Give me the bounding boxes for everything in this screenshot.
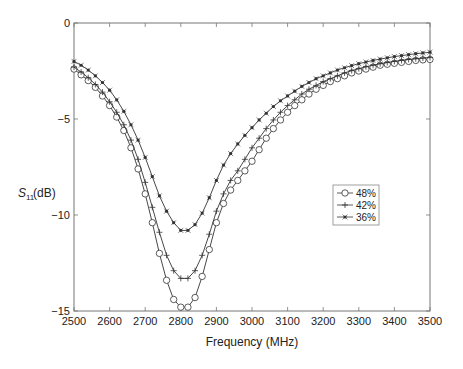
y-tick-label: 0 <box>64 17 70 29</box>
y-tick-label: −10 <box>51 209 70 221</box>
x-tick-label: 3200 <box>311 315 335 327</box>
x-tick-label: 3000 <box>240 315 264 327</box>
x-tick-label: 2600 <box>97 315 121 327</box>
x-tick-label: 3400 <box>382 315 406 327</box>
x-tick-label: 2900 <box>204 315 228 327</box>
x-tick-label: 2700 <box>133 315 157 327</box>
series-42pct <box>71 55 433 282</box>
s11-chart: 2500260027002800290030003100320033003400… <box>0 0 463 369</box>
legend-label: 48% <box>356 188 376 199</box>
y-tick-label: −5 <box>57 113 70 125</box>
x-tick-label: 3500 <box>418 315 442 327</box>
x-tick-label: 2800 <box>169 315 193 327</box>
y-label-main: S <box>18 186 26 200</box>
legend-label: 36% <box>356 212 376 223</box>
y-tick-label: −15 <box>51 305 70 317</box>
legend-label: 42% <box>356 200 376 211</box>
series-48pct <box>71 56 433 310</box>
legend: 48%42%36% <box>333 185 379 225</box>
x-axis-label: Frequency (MHz) <box>206 335 299 349</box>
x-tick-label: 3300 <box>347 315 371 327</box>
y-label-unit: (dB) <box>33 186 56 200</box>
x-tick-label: 3100 <box>275 315 299 327</box>
y-axis-label: S 11 (dB) <box>18 186 56 202</box>
data-series <box>71 50 433 311</box>
